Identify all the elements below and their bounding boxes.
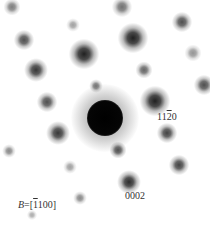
diffraction-spot (115, 20, 151, 56)
diffraction-spot (62, 159, 78, 175)
central-beam (87, 100, 123, 136)
diffraction-spot (183, 43, 203, 63)
diffraction-spot (66, 36, 102, 72)
diffraction-spot (1, 143, 17, 159)
diffraction-spot (35, 90, 59, 114)
diffraction-spot (72, 190, 88, 206)
label-1120: 1120 (157, 112, 177, 122)
diffraction-spot (26, 209, 38, 221)
diffraction-spot (192, 73, 210, 97)
diffraction-spot (134, 60, 154, 80)
diffraction-spot (167, 153, 191, 177)
zone-axis-label: B=[1100] (18, 200, 56, 210)
label-0002: 0002 (125, 191, 145, 201)
diffraction-spot (170, 10, 194, 34)
diffraction-pattern: 1120 0002 B=[1100] (0, 0, 210, 230)
diffraction-spot (44, 119, 72, 147)
diffraction-spot (12, 28, 36, 52)
diffraction-spot (2, 0, 22, 17)
diffraction-spot (22, 56, 50, 84)
diffraction-spot (110, 0, 134, 19)
diffraction-spot (155, 121, 179, 145)
diffraction-spot (65, 17, 81, 33)
